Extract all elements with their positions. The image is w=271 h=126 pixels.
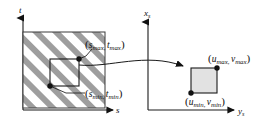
screen-min-corner-label: (umin,vmin) — [185, 95, 225, 108]
left-panel-group: t s (smax,tmax) (smin,tmin) — [19, 5, 125, 115]
right-panel-group: xs ys (umax,vmax) (umin,vmin) — [143, 8, 251, 117]
screen-max-corner-label: (umax,vmax) — [208, 52, 251, 65]
s-axis-label: s — [116, 105, 120, 115]
figure-container: t s (smax,tmax) (smin,tmin) — [0, 0, 271, 126]
ys-axis-label: ys — [237, 106, 245, 117]
screen-max-corner-dot — [214, 65, 219, 70]
screen-mapped-rect-fill — [191, 68, 217, 93]
xs-axis-label: xs — [143, 8, 151, 19]
screen-min-corner-dot — [188, 90, 193, 95]
t-axis-label: t — [19, 5, 22, 15]
diagram-svg: t s (smax,tmax) (smin,tmin) — [0, 0, 271, 126]
